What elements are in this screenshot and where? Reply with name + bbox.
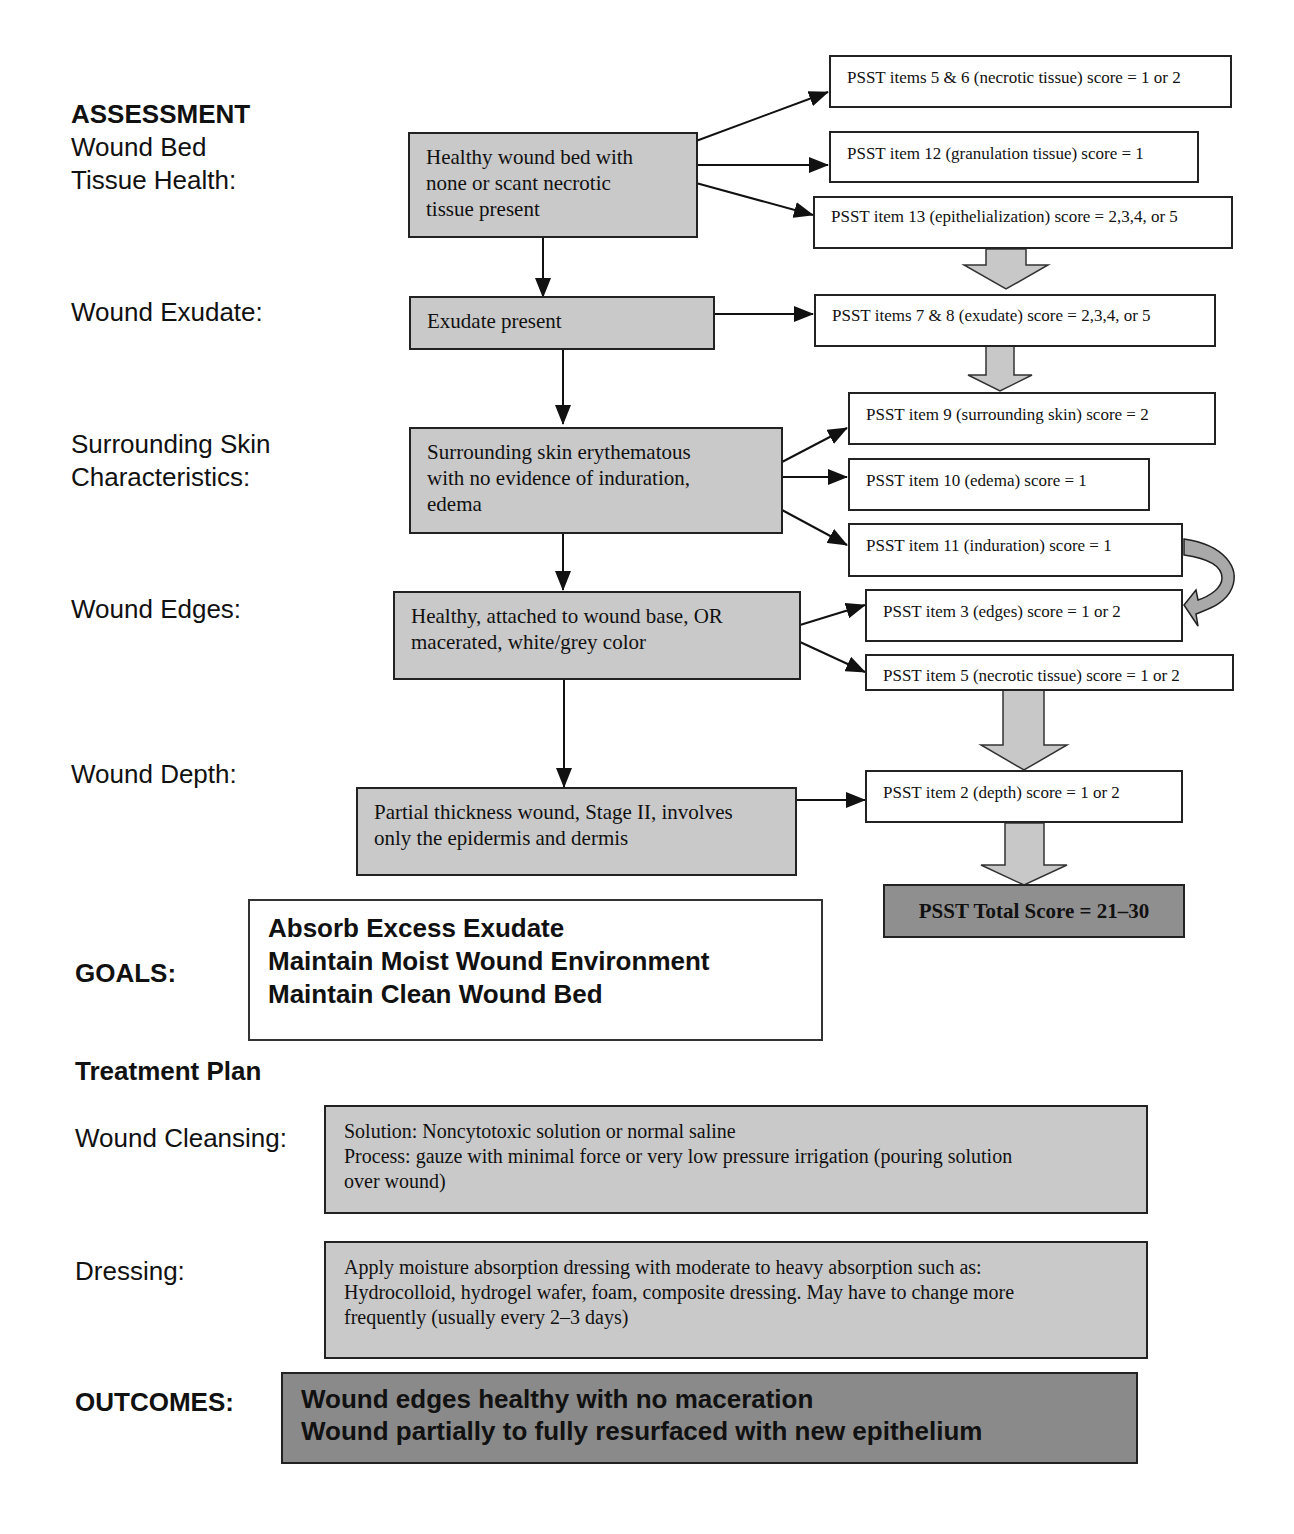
goal-item: Absorb Excess Exudate [268,912,803,945]
finding-surrounding-skin: Surrounding skin erythematous with no ev… [409,427,783,534]
label-surrounding-skin: Surrounding Skin Characteristics: [71,428,270,494]
assessment-heading: ASSESSMENT [71,98,250,131]
psst-item-3: PSST item 3 (edges) score = 1 or 2 [865,589,1183,642]
block-arrow-down-2 [968,345,1032,391]
psst-item-10: PSST item 10 (edema) score = 1 [848,458,1150,511]
label-wound-bed: Wound Bed Tissue Health: [71,131,236,197]
goals-box: Absorb Excess Exudate Maintain Moist Wou… [248,899,823,1041]
treatment-plan-heading: Treatment Plan [75,1055,261,1088]
psst-item-13: PSST item 13 (epithelialization) score =… [813,196,1233,249]
label-dressing: Dressing: [75,1255,185,1288]
label-wound-edges: Wound Edges: [71,593,241,626]
goal-item: Maintain Clean Wound Bed [268,978,803,1011]
finding-wound-edges: Healthy, attached to wound base, OR mace… [393,591,801,680]
goals-heading: GOALS: [75,957,176,990]
psst-item-2: PSST item 2 (depth) score = 1 or 2 [865,770,1183,823]
label-wound-depth: Wound Depth: [71,758,237,791]
psst-item-5-6: PSST items 5 & 6 (necrotic tissue) score… [829,55,1232,108]
dressing-box: Apply moisture absorption dressing with … [324,1241,1148,1359]
finding-wound-bed: Healthy wound bed with none or scant nec… [408,132,698,238]
label-wound-cleansing: Wound Cleansing: [75,1122,287,1155]
psst-item-5: PSST item 5 (necrotic tissue) score = 1 … [865,654,1234,691]
goal-item: Maintain Moist Wound Environment [268,945,803,978]
curved-arrow [1184,539,1234,626]
label-wound-exudate: Wound Exudate: [71,296,263,329]
block-arrow-down-3 [981,690,1067,770]
cleansing-box: Solution: Noncytotoxic solution or norma… [324,1105,1148,1214]
psst-item-9: PSST item 9 (surrounding skin) score = 2 [848,392,1216,445]
outcomes-heading: OUTCOMES: [75,1386,234,1419]
psst-item-7-8: PSST items 7 & 8 (exudate) score = 2,3,4… [814,294,1216,347]
finding-exudate: Exudate present [409,296,715,350]
outcomes-box: Wound edges healthy with no maceration W… [281,1372,1138,1464]
block-arrow-down-1 [964,249,1048,289]
psst-item-11: PSST item 11 (induration) score = 1 [848,523,1183,577]
finding-wound-depth: Partial thickness wound, Stage II, invol… [356,787,797,876]
outcome-item: Wound edges healthy with no maceration [301,1383,1118,1415]
psst-total-score: PSST Total Score = 21–30 [883,884,1185,938]
outcome-item: Wound partially to fully resurfaced with… [301,1415,1118,1447]
psst-item-12: PSST item 12 (granulation tissue) score … [829,131,1199,183]
block-arrow-down-4 [981,823,1067,885]
